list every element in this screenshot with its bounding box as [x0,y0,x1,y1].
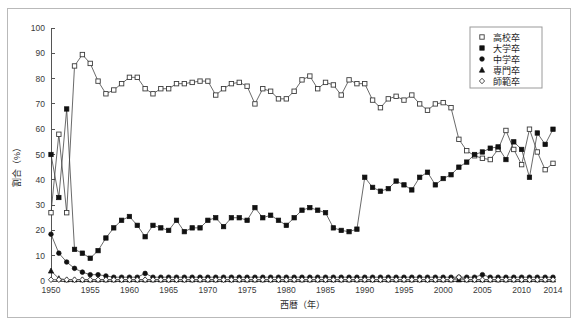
data-point [261,87,265,91]
legend-marker-filled-circle [480,57,485,62]
data-point [363,81,367,85]
data-point [543,142,547,146]
data-point [370,185,374,189]
data-point [135,75,139,79]
data-point [261,216,265,220]
data-point [496,145,500,149]
data-point [119,218,123,222]
data-point [347,78,351,82]
legend-label[interactable]: 中学卒 [493,54,520,65]
y-tick-label: 100 [31,23,45,33]
data-point [56,277,61,283]
legend-label[interactable]: 大学卒 [493,43,520,54]
data-point [519,147,523,151]
data-point [214,93,218,97]
y-tick-label: 40 [36,175,46,185]
data-point [488,157,492,161]
data-point [96,79,100,83]
data-point [308,74,312,78]
legend-marker-open-square [480,35,484,39]
data-point [57,195,61,199]
data-point [206,79,210,83]
data-point [315,87,319,91]
data-point [198,79,202,83]
data-point [394,179,398,183]
data-point [402,183,406,187]
data-point [229,216,233,220]
data-point [370,98,374,102]
series-1 [49,107,555,261]
data-point [127,214,131,218]
data-point [347,229,351,233]
y-tick-label: 20 [36,225,46,235]
x-tick-label: 1975 [238,285,257,295]
data-point [425,170,429,174]
data-point [104,236,108,240]
data-point [441,100,445,104]
data-point [363,175,367,179]
data-point [143,87,147,91]
x-tick-label: 1965 [159,285,178,295]
data-point [190,226,194,230]
data-point [182,229,186,233]
data-point [512,140,516,144]
legend-label[interactable]: 師範卒 [493,76,520,87]
data-point [112,88,116,92]
data-point [57,132,61,136]
data-point [315,208,319,212]
y-axis-title: 割合（%） [11,143,22,187]
data-point [276,218,280,222]
data-point [64,260,69,265]
x-tick-label: 2000 [434,285,453,295]
data-point [527,127,531,131]
data-point [292,89,296,93]
data-point [386,186,390,190]
data-point [355,227,359,231]
data-point [174,81,178,85]
data-point [465,160,469,164]
data-point [433,183,437,187]
series-2 [49,232,556,280]
data-point [456,274,461,280]
data-point [386,97,390,101]
data-point [519,162,523,166]
x-tick-label: 2005 [473,285,492,295]
data-point [323,80,327,84]
legend-label[interactable]: 高校卒 [493,32,520,43]
data-point [72,266,77,271]
data-point [331,226,335,230]
legend-label[interactable]: 専門卒 [493,65,520,76]
data-point [245,218,249,222]
x-tick-label: 2010 [512,285,531,295]
data-point [80,251,84,255]
data-point [49,210,53,214]
data-point [57,251,62,256]
data-point [339,228,343,232]
data-point [410,188,414,192]
x-tick-label: 1985 [316,285,335,295]
data-point [174,218,178,222]
data-point [49,152,53,156]
chart-screenshot: 0102030405060708090100 19501955196019651… [0,0,579,327]
data-point [96,248,100,252]
y-tick-label: 80 [36,74,46,84]
data-point [527,175,531,179]
data-point [284,97,288,101]
data-point [253,102,257,106]
data-point [284,223,288,227]
data-point [300,208,304,212]
data-point [472,152,476,156]
data-point [221,87,225,91]
data-point [143,235,147,239]
data-point [441,176,445,180]
data-point [308,205,312,209]
x-tick-label: 1950 [42,285,61,295]
y-tick-label: 70 [36,99,46,109]
data-point [182,81,186,85]
data-point [237,80,241,84]
x-tick-label: 1995 [395,285,414,295]
chart-legend[interactable]: 高校卒大学卒中学卒専門卒師範卒 [470,27,542,88]
data-point [457,165,461,169]
data-point [292,216,296,220]
data-point [48,277,53,283]
